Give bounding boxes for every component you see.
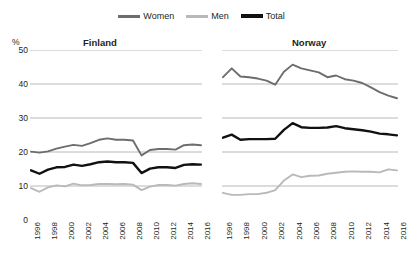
x-tick-label: 2006 <box>119 222 127 240</box>
legend-label-total: Total <box>266 12 285 21</box>
x-tick-label: 2008 <box>136 222 144 240</box>
x-tick-label: 2010 <box>348 222 356 240</box>
y-axis-tick-labels: 01020304050 <box>8 50 28 220</box>
y-tick-label: 30 <box>19 114 28 123</box>
x-tick-label: 2000 <box>68 222 76 240</box>
x-tick-label: 2014 <box>187 222 195 240</box>
x-tick-label: 2004 <box>296 222 304 240</box>
x-tick-label: 2014 <box>383 222 391 240</box>
x-tick-label: 1998 <box>51 222 59 240</box>
line-swatch-icon <box>118 15 140 18</box>
panel-title-finland: Finland <box>83 38 117 48</box>
legend-label-men: Men <box>211 12 229 21</box>
series-line-total <box>223 123 397 140</box>
x-tick-label: 1998 <box>243 222 251 240</box>
chart-panel-norway <box>222 50 398 220</box>
series-line-men <box>223 169 397 195</box>
series-line-total <box>31 162 201 174</box>
x-tick-label: 2002 <box>278 222 286 240</box>
plot-area <box>30 50 202 220</box>
series-line-women <box>223 65 397 99</box>
x-tick-label: 2010 <box>153 222 161 240</box>
x-tick-label: 2012 <box>365 222 373 240</box>
x-tick-label: 2016 <box>400 222 408 240</box>
x-tick-label: 2012 <box>170 222 178 240</box>
x-tick-label: 1996 <box>226 222 234 240</box>
x-tick-label: 1996 <box>34 222 42 240</box>
chart-legend: Women Men Total <box>0 8 403 24</box>
legend-item-women: Women <box>118 12 174 21</box>
series-line-women <box>31 138 201 155</box>
x-axis-tick-labels-finland: 1996199820002002200420062008201020122014… <box>30 222 202 272</box>
x-tick-label: 2006 <box>313 222 321 240</box>
legend-item-men: Men <box>186 12 229 21</box>
legend-item-total: Total <box>241 12 285 21</box>
x-tick-label: 2004 <box>102 222 110 240</box>
plot-area <box>222 50 398 220</box>
y-tick-label: 20 <box>19 148 28 157</box>
y-tick-label: 40 <box>19 80 28 89</box>
y-tick-label: 0 <box>23 216 28 225</box>
line-swatch-icon <box>186 15 208 18</box>
panel-title-norway: Norway <box>292 38 326 48</box>
x-tick-label: 2000 <box>261 222 269 240</box>
y-tick-label: 50 <box>19 46 28 55</box>
chart-panel-finland <box>30 50 202 220</box>
x-tick-label: 2008 <box>330 222 338 240</box>
legend-label-women: Women <box>143 12 174 21</box>
line-swatch-icon <box>241 14 263 18</box>
x-tick-label: 2016 <box>204 222 212 240</box>
x-tick-label: 2002 <box>85 222 93 240</box>
y-tick-label: 10 <box>19 182 28 191</box>
x-axis-tick-labels-norway: 1996199820002002200420062008201020122014… <box>222 222 398 272</box>
series-line-men <box>31 183 201 192</box>
